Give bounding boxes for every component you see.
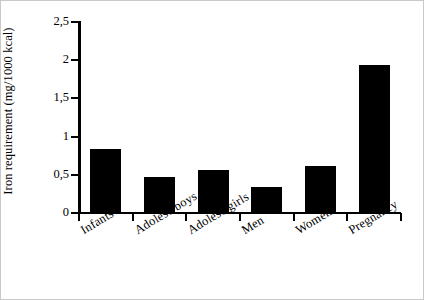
y-axis-tick bbox=[71, 21, 79, 23]
y-axis-tick bbox=[71, 174, 79, 176]
y-axis-tick-label: 0 bbox=[35, 206, 69, 219]
y-axis-tick-label: 1,5 bbox=[35, 91, 69, 104]
bar bbox=[251, 187, 282, 213]
y-axis-tick-label: 2 bbox=[35, 53, 69, 66]
y-axis-tick-label: 2,5 bbox=[35, 15, 69, 28]
y-axis-tick bbox=[71, 136, 79, 138]
x-axis-tick bbox=[239, 213, 241, 221]
y-axis-tick-label: 1 bbox=[35, 130, 69, 143]
x-axis-tick bbox=[293, 213, 295, 221]
x-axis-tick bbox=[78, 213, 80, 221]
bar bbox=[359, 65, 390, 213]
bar bbox=[90, 149, 121, 213]
y-axis-tick bbox=[71, 97, 79, 99]
y-axis-tick-labels: 00,511,522,5 bbox=[31, 1, 69, 300]
bar-chart-figure: Iron requirement (mg/1000 kcal) 00,511,5… bbox=[0, 0, 424, 300]
x-axis-tick bbox=[185, 213, 187, 221]
x-axis-tick bbox=[346, 213, 348, 221]
x-axis-label: Men bbox=[239, 213, 267, 238]
x-axis-tick bbox=[400, 213, 402, 221]
y-axis-tick-label: 0,5 bbox=[35, 168, 69, 181]
bar bbox=[305, 166, 336, 213]
y-axis-title: Iron requirement (mg/1000 kcal) bbox=[1, 5, 29, 217]
y-axis-line bbox=[78, 21, 81, 214]
x-axis-tick bbox=[132, 213, 134, 221]
y-axis-tick bbox=[71, 59, 79, 61]
